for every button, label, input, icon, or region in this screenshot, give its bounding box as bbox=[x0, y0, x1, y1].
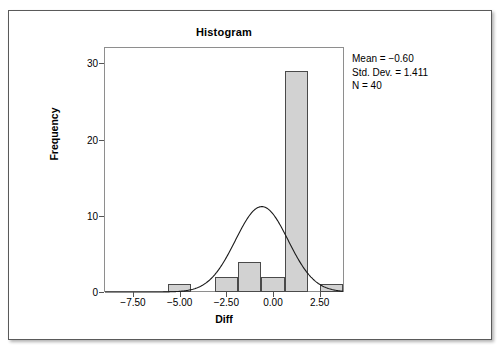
x-tick-label: −2.50 bbox=[214, 297, 239, 308]
histogram-bar bbox=[285, 71, 308, 292]
stat-n: N = 40 bbox=[352, 79, 428, 93]
x-tick-mark bbox=[273, 292, 274, 297]
x-tick-label: 2.50 bbox=[310, 297, 329, 308]
y-axis-title: Frequency bbox=[48, 74, 60, 194]
y-tick-mark bbox=[99, 216, 104, 217]
histogram-bar bbox=[261, 277, 284, 292]
screenshot-root: Histogram Frequency 0102030 −7.50−5.00−2… bbox=[0, 0, 504, 357]
histogram-bar bbox=[238, 262, 261, 293]
histogram-bar bbox=[215, 277, 238, 292]
y-tick-label: 10 bbox=[87, 210, 98, 221]
stat-std-dev: Std. Dev. = 1.411 bbox=[352, 66, 428, 80]
y-tick-label: 0 bbox=[92, 287, 98, 298]
histogram-bar bbox=[320, 284, 343, 292]
x-tick-label: −7.50 bbox=[120, 297, 145, 308]
x-axis-title: Diff bbox=[104, 313, 344, 325]
x-tick-label: −5.00 bbox=[167, 297, 192, 308]
stat-mean: Mean = −0.60 bbox=[352, 52, 428, 66]
x-tick-mark bbox=[226, 292, 227, 297]
statistics-annotation: Mean = −0.60 Std. Dev. = 1.411 N = 40 bbox=[352, 52, 428, 93]
y-tick-mark bbox=[99, 63, 104, 64]
y-tick-mark bbox=[99, 140, 104, 141]
y-tick-label: 20 bbox=[87, 134, 98, 145]
y-tick-mark bbox=[99, 292, 104, 293]
x-tick-mark bbox=[180, 292, 181, 297]
histogram-bar bbox=[168, 284, 191, 292]
x-tick-label: 0.00 bbox=[263, 297, 282, 308]
x-tick-mark bbox=[320, 292, 321, 297]
y-tick-label: 30 bbox=[87, 58, 98, 69]
x-axis-tick-labels: −7.50−5.00−2.500.002.50 bbox=[0, 297, 504, 311]
x-tick-mark bbox=[133, 292, 134, 297]
chart-title: Histogram bbox=[104, 26, 344, 38]
plot-area bbox=[105, 48, 343, 292]
